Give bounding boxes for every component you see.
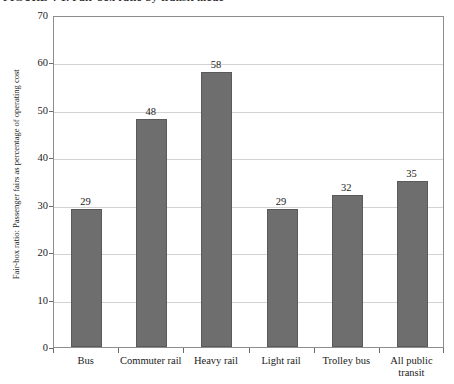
y-axis-tick-label: 60 [26,58,48,69]
y-axis-tick-label: 20 [26,248,48,259]
gridline [54,302,443,303]
bar-value-label: 32 [326,183,366,194]
x-axis-tick-mark [379,348,380,353]
x-axis-category-label: All publictransit [371,355,451,379]
x-axis-category-line: Commuter rail [120,355,182,366]
figure-caption-text: FIGURE 4-1. Fair-box ratio by transit mo… [3,0,224,3]
bar-value-label: 58 [196,60,236,71]
bar-value-label: 48 [131,107,171,118]
x-axis-tick-mark [443,348,444,353]
bar [332,195,363,347]
y-axis-tick-mark [49,158,53,159]
bar [71,209,102,347]
gridline [54,64,443,65]
gridline [54,112,443,113]
y-axis-title: Fair-box ratio: Passenger fairs as perce… [9,0,23,348]
x-axis-category-line: Heavy rail [194,355,238,366]
y-axis-tick-label: 40 [26,153,48,164]
x-axis-tick-mark [314,348,315,353]
y-axis-title-text: Fair-box ratio: Passenger fairs as perce… [12,69,21,279]
x-axis-tick-mark [249,348,250,353]
y-axis-tick-label: 0 [26,343,48,354]
bar [136,119,167,347]
figure-caption-sliver: FIGURE 4-1. Fair-box ratio by transit mo… [3,0,243,5]
y-axis-tick-mark [49,301,53,302]
y-axis-tick-label: 70 [26,11,48,22]
gridline [54,254,443,255]
x-axis-category-line: Trolley bus [322,355,370,366]
gridline [54,159,443,160]
x-axis-tick-mark [118,348,119,353]
y-axis-tick-label: 30 [26,201,48,212]
plot-area [53,16,444,348]
bar-value-label: 29 [261,197,301,208]
bar [267,209,298,347]
bar-value-label: 35 [391,169,431,180]
x-axis-tick-mark [53,348,54,353]
x-axis-category-line: All public [390,355,432,366]
y-axis-tick-label: 10 [26,296,48,307]
y-axis-tick-label: 50 [26,106,48,117]
y-axis-tick-mark [49,206,53,207]
x-axis-category-line: Light rail [261,355,300,366]
x-axis-category-line: transit [371,367,451,379]
x-axis-category-line: Bus [77,355,93,366]
bar [397,181,428,347]
bar [201,72,232,347]
y-axis-tick-mark [49,111,53,112]
gridline [54,207,443,208]
bar-value-label: 29 [66,197,106,208]
y-axis-tick-mark [49,253,53,254]
y-axis-tick-mark [49,63,53,64]
x-axis-tick-mark [183,348,184,353]
